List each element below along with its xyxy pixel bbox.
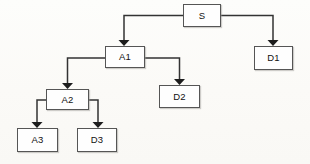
node-d3[interactable]: D3 xyxy=(77,128,117,152)
node-d2[interactable]: D2 xyxy=(159,85,200,108)
node-s[interactable]: S xyxy=(183,4,221,27)
node-label-d1: D1 xyxy=(267,53,280,63)
edge-a2-d3 xyxy=(89,100,98,123)
arrowhead-group xyxy=(32,40,279,128)
edge-a2-a3 xyxy=(37,100,46,123)
node-label-d2: D2 xyxy=(173,91,186,101)
node-a3[interactable]: A3 xyxy=(17,128,58,152)
node-label-a2: A2 xyxy=(61,94,73,104)
node-d1[interactable]: D1 xyxy=(254,46,293,70)
node-a1[interactable]: A1 xyxy=(105,46,145,68)
node-label-s: S xyxy=(199,10,206,20)
node-label-a3: A3 xyxy=(31,135,43,145)
node-label-d3: D3 xyxy=(91,135,104,145)
edge-a1-d2 xyxy=(145,58,180,80)
tree-diagram: S D1 A1 D2 A2 A3 D3 xyxy=(0,0,310,164)
node-label-a1: A1 xyxy=(119,52,131,62)
node-a2[interactable]: A2 xyxy=(46,89,89,110)
edge-a1-a2 xyxy=(68,58,106,84)
edge-s-a1 xyxy=(124,16,183,42)
edge-s-d1 xyxy=(221,16,273,42)
